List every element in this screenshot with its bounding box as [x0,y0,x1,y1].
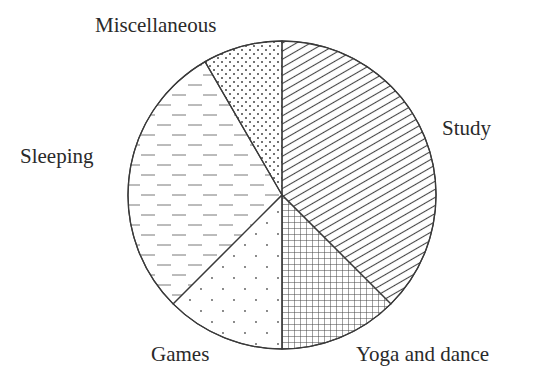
pie-slices [128,41,436,349]
slice-label-sleeping: Sleeping [20,144,94,168]
slice-label-miscellaneous: Miscellaneous [95,13,216,37]
slice-label-study: Study [442,116,492,140]
slice-label-yoga-and-dance: Yoga and dance [356,342,489,366]
pie-chart: Study Yoga and dance Games Sleeping Misc… [0,0,549,389]
slice-label-games: Games [151,342,209,366]
